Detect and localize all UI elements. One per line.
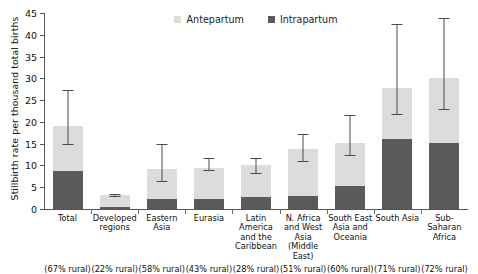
x-axis-label: South EastAsia andOceania xyxy=(327,214,374,242)
bar-segment-intrapartum xyxy=(194,199,224,209)
error-bar-line xyxy=(444,18,445,109)
x-axis-sublabel-rural-percent: (22% rural) xyxy=(91,264,138,274)
y-tick-label: 10 xyxy=(25,160,37,171)
legend-item-intrapartum[interactable]: Intrapartum xyxy=(268,14,338,25)
error-bar-cap-upper xyxy=(156,144,167,145)
y-axis-title: Stillbirth rate per thousand total birth… xyxy=(9,9,20,209)
y-tick-label: 40 xyxy=(25,29,37,40)
error-bar-cap-upper xyxy=(345,115,356,116)
y-tick-label: 5 xyxy=(31,182,37,193)
y-tick-mark xyxy=(40,57,44,58)
x-axis-sublabel-rural-percent: (72% rural) xyxy=(421,264,468,274)
legend-swatch xyxy=(174,16,181,23)
x-axis-label: Latin Americaand theCaribbean xyxy=(232,214,279,252)
error-bar-line xyxy=(67,90,68,144)
error-bar-cap-upper xyxy=(62,90,73,91)
y-tick-mark xyxy=(40,35,44,36)
error-bar-line xyxy=(208,158,209,170)
x-axis-label-line: Sub-Saharan xyxy=(421,214,468,233)
error-bar-line xyxy=(303,134,304,161)
x-axis-sublabel-rural-percent: (58% rural) xyxy=(138,264,185,274)
x-axis-sublabel-rural-percent: (71% rural) xyxy=(374,264,421,274)
error-bar-line xyxy=(256,158,257,172)
x-axis-label: Eastern Asia xyxy=(138,214,185,233)
bar-segment-intrapartum xyxy=(100,207,130,209)
error-bar-cap-lower xyxy=(109,196,120,197)
y-tick-mark xyxy=(40,209,44,210)
bar-segment-intrapartum xyxy=(335,186,365,209)
error-bar-cap-upper xyxy=(298,134,309,135)
x-axis-label: N. Africaand West Asia(Middle East) xyxy=(280,214,327,261)
bar-segment-intrapartum xyxy=(241,197,271,209)
x-axis-label-line: regions xyxy=(91,223,138,232)
error-bar-cap-lower xyxy=(439,109,450,110)
x-axis-label-line: Caribbean xyxy=(232,242,279,251)
error-bar-line xyxy=(397,24,398,114)
y-tick-label: 25 xyxy=(25,95,37,106)
x-axis-label-line: Total xyxy=(44,214,91,223)
chart-legend: AntepartumIntrapartum xyxy=(44,13,468,25)
x-axis-label: Eurasia xyxy=(185,214,232,223)
y-tick-mark xyxy=(40,165,44,166)
y-tick-mark xyxy=(40,78,44,79)
y-tick-label: 15 xyxy=(25,138,37,149)
y-tick-label: 45 xyxy=(25,8,37,19)
x-axis-label-line: South Asia xyxy=(374,214,421,223)
x-axis-label: Developedregions xyxy=(91,214,138,233)
x-axis-line xyxy=(44,209,468,210)
x-axis-sublabel-rural-percent: (60% rural) xyxy=(327,264,374,274)
error-bar-cap-upper xyxy=(203,158,214,159)
bar-segment-antepartum xyxy=(194,168,224,198)
x-axis-label-line: Africa xyxy=(421,233,468,242)
y-tick-label: 20 xyxy=(25,116,37,127)
y-tick-mark xyxy=(40,100,44,101)
bar-segment-intrapartum xyxy=(382,139,412,209)
plot-area: 051015202530354045 AntepartumIntrapartum xyxy=(44,13,468,209)
x-axis-sublabel-rural-percent: (43% rural) xyxy=(185,264,232,274)
x-axis-label-line: (Middle East) xyxy=(280,242,327,261)
bar-segment-intrapartum xyxy=(288,196,318,209)
bar-segment-intrapartum xyxy=(53,171,83,209)
error-bar-cap-lower xyxy=(251,173,262,174)
y-tick-mark xyxy=(40,187,44,188)
error-bar-cap-lower xyxy=(345,155,356,156)
legend-item-antepartum[interactable]: Antepartum xyxy=(174,14,243,25)
error-bar-cap-lower xyxy=(392,114,403,115)
x-axis-sublabel-rural-percent: (67% rural) xyxy=(44,264,91,274)
x-axis-label-line: Oceania xyxy=(327,233,374,242)
error-bar-line xyxy=(161,144,162,181)
x-axis-label-line: and West Asia xyxy=(280,223,327,242)
error-bar-cap-upper xyxy=(109,194,120,195)
x-axis-label-line: Latin America xyxy=(232,214,279,233)
legend-label: Intrapartum xyxy=(280,14,338,25)
y-tick-mark xyxy=(40,144,44,145)
error-bar-cap-lower xyxy=(62,144,73,145)
x-axis-label-line: Eurasia xyxy=(185,214,232,223)
y-tick-label: 0 xyxy=(31,204,37,215)
y-axis-line xyxy=(44,13,45,209)
x-axis-label: South Asia xyxy=(374,214,421,223)
x-axis-labels: Total(67% rural)Developedregions(22% rur… xyxy=(44,214,468,252)
x-axis-label: Total xyxy=(44,214,91,223)
error-bar-cap-lower xyxy=(156,181,167,182)
y-tick-label: 30 xyxy=(25,73,37,84)
x-axis-sublabel-rural-percent: (51% rural) xyxy=(280,264,327,274)
x-axis-sublabel-rural-percent: (28% rural) xyxy=(232,264,279,274)
error-bar-cap-upper xyxy=(251,158,262,159)
legend-label: Antepartum xyxy=(186,14,243,25)
error-bar-line xyxy=(350,115,351,155)
bar-group[interactable] xyxy=(194,168,224,209)
bar-segment-intrapartum xyxy=(147,199,177,209)
error-bar-cap-lower xyxy=(203,170,214,171)
x-axis-label-line: Eastern Asia xyxy=(138,214,185,233)
y-tick-label: 35 xyxy=(25,51,37,62)
x-axis-label: Sub-SaharanAfrica xyxy=(421,214,468,242)
bar-segment-intrapartum xyxy=(429,143,459,209)
y-tick-mark xyxy=(40,122,44,123)
error-bar-cap-lower xyxy=(298,161,309,162)
legend-swatch xyxy=(268,16,275,23)
